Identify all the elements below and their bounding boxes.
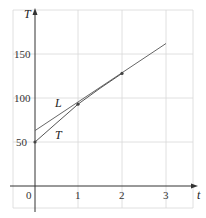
x-axis-label: t (197, 188, 201, 202)
y-tick: 100 (14, 92, 31, 104)
y-tick: 50 (16, 136, 28, 148)
y-axis-label: T (24, 7, 32, 21)
x-tick: 2 (119, 189, 125, 201)
grid (13, 10, 193, 208)
curve-T (35, 73, 122, 142)
data-point (76, 103, 79, 106)
curve-label-L: L (54, 96, 62, 110)
data-point (33, 140, 36, 143)
chart: T t L T 0 1 2 3 50 100 150 (0, 0, 206, 218)
curve-label-T: T (55, 128, 63, 142)
x-tick: 0 (26, 189, 32, 201)
line-L (35, 44, 166, 131)
x-tick: 3 (163, 189, 169, 201)
y-tick: 150 (14, 48, 31, 60)
data-point (120, 72, 123, 75)
x-tick: 1 (75, 189, 81, 201)
y-axis-arrow-icon (33, 8, 38, 15)
